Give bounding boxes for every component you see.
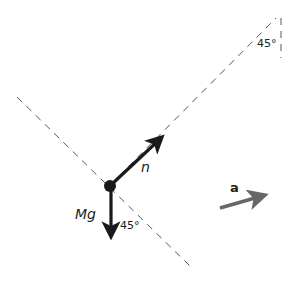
angle-top-label: 45° <box>257 37 277 50</box>
diagram-canvas: n Mg 45° 45° a <box>0 0 295 283</box>
diagram-svg: n Mg 45° 45° a <box>0 0 295 283</box>
normal-force-label: n <box>141 159 150 175</box>
acceleration-label: a <box>230 180 239 195</box>
mass-point <box>104 180 116 192</box>
angle-bottom-label: 45° <box>120 219 140 232</box>
weight-label: Mg <box>75 206 96 222</box>
acceleration-arrow <box>220 196 262 208</box>
incline-dashed-line <box>17 97 190 266</box>
normal-dashed-line <box>110 18 276 185</box>
normal-force-arrow <box>111 139 160 185</box>
